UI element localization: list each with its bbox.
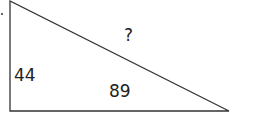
triangle-diagram: 44 89 ? (0, 0, 271, 131)
left-side-label: 44 (14, 67, 36, 84)
marker-dot (1, 13, 3, 15)
bottom-side-label: 89 (109, 83, 131, 100)
hypotenuse-label: ? (124, 27, 133, 44)
right-triangle-shape (0, 0, 271, 131)
